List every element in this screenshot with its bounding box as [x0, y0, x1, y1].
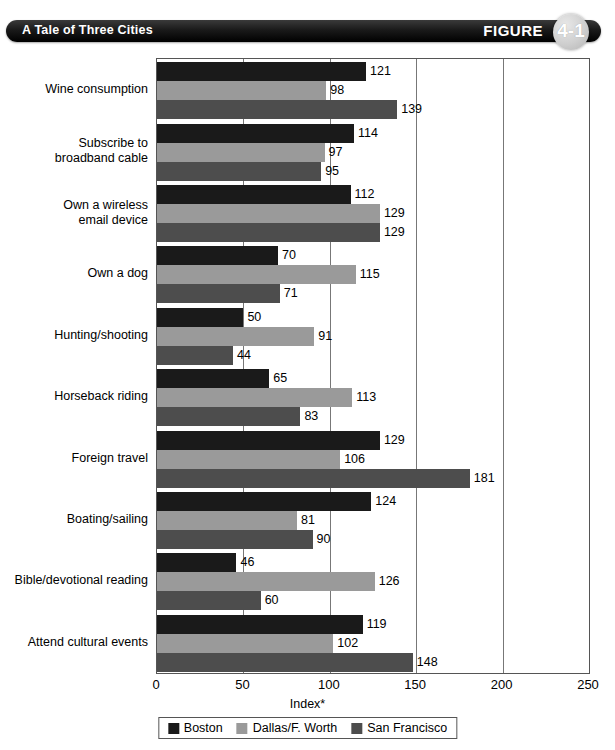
bar: [157, 615, 363, 634]
bar-group: 7011571: [157, 246, 589, 303]
figure-title: A Tale of Three Cities: [22, 23, 153, 37]
bar-value-label: 102: [333, 634, 358, 653]
bar: [157, 265, 356, 284]
bar-value-label: 50: [243, 308, 261, 327]
category-label: Horseback riding: [0, 389, 148, 404]
bar: [157, 369, 269, 388]
bar-value-label: 129: [380, 204, 405, 223]
category-label: Attend cultural events: [0, 635, 148, 650]
bar-value-label: 129: [380, 431, 405, 450]
bar-value-label: 181: [470, 469, 495, 488]
bar: [157, 284, 280, 303]
figure-number: 4-1: [553, 20, 589, 42]
bar-group: 509144: [157, 308, 589, 365]
bar: [157, 143, 325, 162]
bar: [157, 530, 313, 549]
category-label: Boating/sailing: [0, 512, 148, 527]
bar-value-label: 60: [261, 591, 279, 610]
bar-group: 4612660: [157, 553, 589, 610]
bar-value-label: 97: [325, 143, 343, 162]
bar: [157, 185, 351, 204]
category-label: Foreign travel: [0, 451, 148, 466]
figure-title-bar: A Tale of Three Cities FIGURE 4-1: [6, 20, 601, 42]
bar: [157, 124, 354, 143]
bar-value-label: 148: [413, 653, 438, 672]
category-label: Hunting/shooting: [0, 328, 148, 343]
category-label: Own a wireless email device: [0, 198, 148, 228]
category-label: Wine consumption: [0, 82, 148, 97]
x-tick-200: 200: [491, 677, 513, 692]
bar: [157, 81, 326, 100]
x-tick-250: 250: [577, 677, 599, 692]
bar-value-label: 44: [233, 346, 251, 365]
legend-label: Boston: [184, 721, 223, 735]
legend-swatch-icon: [351, 723, 362, 734]
bar-value-label: 121: [366, 62, 391, 81]
x-tick-100: 100: [318, 677, 340, 692]
bar: [157, 591, 261, 610]
legend-swatch-icon: [237, 723, 248, 734]
bar-group: 1149795: [157, 124, 589, 181]
bar-value-label: 129: [380, 223, 405, 242]
legend-item: San Francisco: [351, 721, 447, 735]
bar-value-label: 46: [236, 553, 254, 572]
bar-value-label: 81: [297, 511, 315, 530]
bar-group: 12198139: [157, 62, 589, 119]
bar-value-label: 112: [351, 185, 375, 204]
chart-legend: BostonDallas/F. WorthSan Francisco: [158, 717, 457, 739]
bar: [157, 407, 300, 426]
bar-value-label: 119: [363, 615, 387, 634]
legend-label: San Francisco: [367, 721, 447, 735]
bar-value-label: 114: [354, 124, 378, 143]
bar-value-label: 90: [313, 530, 331, 549]
bar: [157, 492, 371, 511]
bar-group: 129106181: [157, 431, 589, 488]
bar: [157, 450, 340, 469]
bar: [157, 653, 413, 672]
bar: [157, 572, 375, 591]
bar-value-label: 65: [269, 369, 287, 388]
figure-number-badge: 4-1: [553, 14, 589, 50]
legend-label: Dallas/F. Worth: [253, 721, 338, 735]
bar-value-label: 139: [397, 100, 422, 119]
bar: [157, 511, 297, 530]
category-label: Subscribe to broadband cable: [0, 136, 148, 166]
bar: [157, 308, 243, 327]
bar-value-label: 83: [300, 407, 318, 426]
bar-group: 112129129: [157, 185, 589, 242]
bar: [157, 246, 278, 265]
bar: [157, 388, 352, 407]
bar-chart-plot-area: 1219813911497951121291297011571509144651…: [156, 58, 590, 674]
bar: [157, 100, 397, 119]
bar-value-label: 70: [278, 246, 296, 265]
bar: [157, 223, 380, 242]
bar-group: 119102148: [157, 615, 589, 672]
bar-value-label: 71: [280, 284, 298, 303]
bar-value-label: 95: [321, 162, 339, 181]
legend-item: Boston: [168, 721, 223, 735]
bar: [157, 346, 233, 365]
bar: [157, 553, 236, 572]
bar: [157, 204, 380, 223]
category-label: Bible/devotional reading: [0, 573, 148, 588]
legend-swatch-icon: [168, 723, 179, 734]
figure-word-label: FIGURE: [483, 22, 543, 39]
bar: [157, 634, 333, 653]
bar-value-label: 91: [314, 327, 332, 346]
bar-value-label: 124: [371, 492, 396, 511]
bar: [157, 431, 380, 450]
bar: [157, 327, 314, 346]
legend-item: Dallas/F. Worth: [237, 721, 338, 735]
bar: [157, 469, 470, 488]
bar: [157, 162, 321, 181]
bar-value-label: 115: [356, 265, 380, 284]
bar-value-label: 113: [352, 388, 376, 407]
x-tick-0: 0: [152, 677, 159, 692]
bar-group: 6511383: [157, 369, 589, 426]
x-tick-50: 50: [235, 677, 249, 692]
bar-value-label: 106: [340, 450, 365, 469]
bar-group: 1248190: [157, 492, 589, 549]
bar-value-label: 98: [326, 81, 344, 100]
bar-value-label: 126: [375, 572, 400, 591]
category-label: Own a dog: [0, 266, 148, 281]
